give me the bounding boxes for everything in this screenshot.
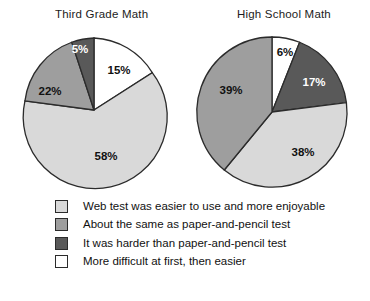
legend-item-about-the-same: About the same as paper-and-pencil test [55,216,360,235]
legend-item-more-difficult-at-first: More difficult at first, then easier [55,253,360,272]
pie-label-17-percent: 17% [302,76,325,88]
chart-legend: Web test was easier to use and more enjo… [55,197,360,271]
legend-label: Web test was easier to use and more enjo… [83,200,325,213]
pie-label-22-percent: 22% [38,85,61,97]
pie-label-38-percent: 38% [291,146,314,158]
pie-svg-third-grade: 15% 58% 22% 5% [18,32,174,188]
pie-label-6-percent: 6% [277,46,294,58]
legend-swatch-dark-gray [55,237,68,250]
pie-label-58-percent: 58% [94,150,117,162]
pie-chart-figure: Third Grade Math High School Math 15% 58… [0,0,370,301]
pie-svg-high-school: 6% 17% 38% 39% [194,32,354,192]
legend-item-it-was-harder: It was harder than paper-and-pencil test [55,234,360,253]
legend-label: More difficult at first, then easier [83,255,246,268]
pie-chart-high-school-math: 6% 17% 38% 39% [194,32,354,192]
legend-item-web-test-easier: Web test was easier to use and more enjo… [55,197,360,216]
chart-title-third-grade-math: Third Grade Math [55,8,148,20]
legend-label: About the same as paper-and-pencil test [83,218,290,231]
pie-chart-third-grade-math: 15% 58% 22% 5% [18,32,174,188]
legend-swatch-white [55,255,68,268]
pie-label-39-percent: 39% [219,84,242,96]
legend-label: It was harder than paper-and-pencil test [83,237,286,250]
pie-label-15-percent: 15% [107,64,130,76]
pie-label-5-percent: 5% [72,43,89,55]
chart-title-high-school-math: High School Math [237,8,331,20]
legend-swatch-medium-gray [55,218,68,231]
legend-swatch-light-gray [55,200,68,213]
